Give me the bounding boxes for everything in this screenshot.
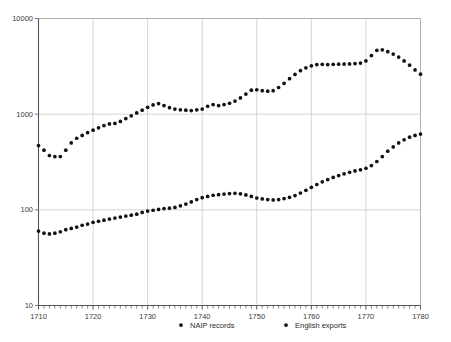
- legend-label: English exports: [295, 321, 347, 330]
- data-point: [108, 217, 112, 221]
- data-point: [413, 68, 417, 72]
- data-point: [282, 81, 286, 85]
- data-point: [337, 174, 341, 178]
- data-point: [162, 104, 166, 108]
- x-axis-tick-label: 1720: [85, 312, 102, 321]
- data-point: [53, 155, 57, 159]
- data-point: [195, 108, 199, 112]
- data-point: [342, 62, 346, 66]
- data-point: [391, 52, 395, 56]
- data-point: [206, 195, 210, 199]
- data-point: [184, 202, 188, 206]
- data-point: [315, 183, 319, 187]
- data-point: [200, 196, 204, 200]
- data-point: [364, 166, 368, 170]
- data-point: [320, 62, 324, 66]
- legend-marker-icon: [179, 323, 183, 327]
- data-point: [233, 191, 237, 195]
- data-point: [211, 193, 215, 197]
- data-point: [299, 69, 303, 73]
- data-point: [293, 73, 297, 77]
- chart-container: 1000010001001017101720173017401750176017…: [0, 0, 451, 342]
- data-point: [189, 200, 193, 204]
- data-point: [173, 206, 177, 210]
- legend-marker-icon: [284, 323, 288, 327]
- data-point: [75, 225, 79, 229]
- data-point: [162, 207, 166, 211]
- data-point: [391, 145, 395, 149]
- data-point: [119, 215, 123, 219]
- data-point: [151, 208, 155, 212]
- data-point: [217, 104, 221, 108]
- data-point: [277, 198, 281, 202]
- data-point: [129, 114, 133, 118]
- legend-label: NAIP records: [190, 321, 235, 330]
- data-point: [408, 135, 412, 139]
- x-axis-tick-label: 1770: [358, 312, 375, 321]
- data-point: [244, 92, 248, 96]
- data-point: [189, 109, 193, 113]
- data-point: [282, 197, 286, 201]
- data-point: [266, 89, 270, 93]
- data-point: [288, 196, 292, 200]
- series-english-exports: [37, 132, 423, 236]
- data-point: [331, 62, 335, 66]
- data-point: [342, 172, 346, 176]
- data-point: [271, 198, 275, 202]
- data-point: [184, 108, 188, 112]
- data-point: [179, 108, 183, 112]
- data-point: [397, 55, 401, 59]
- data-point: [375, 160, 379, 164]
- data-point: [331, 176, 335, 180]
- data-point: [146, 209, 150, 213]
- data-point: [326, 178, 330, 182]
- data-point: [255, 88, 259, 92]
- y-axis-tick-label: 100: [20, 205, 33, 214]
- data-point: [211, 103, 215, 107]
- data-point: [260, 89, 264, 93]
- data-point: [69, 227, 73, 231]
- data-point: [173, 107, 177, 111]
- data-point: [200, 107, 204, 111]
- data-point: [86, 131, 90, 135]
- data-point: [228, 192, 232, 196]
- data-point: [233, 99, 237, 103]
- data-point: [86, 222, 90, 226]
- data-point: [408, 63, 412, 67]
- data-point: [195, 198, 199, 202]
- data-point: [239, 192, 243, 196]
- x-axis-tick-label: 1710: [30, 312, 47, 321]
- data-point: [380, 48, 384, 52]
- data-point: [124, 214, 128, 218]
- data-point: [364, 59, 368, 63]
- data-point: [353, 169, 357, 173]
- data-point: [315, 63, 319, 67]
- data-point: [48, 232, 52, 236]
- data-point: [37, 229, 41, 233]
- data-point: [222, 103, 226, 107]
- data-point: [168, 106, 172, 110]
- data-point: [140, 108, 144, 112]
- log-scatter-chart: 1000010001001017101720173017401750176017…: [0, 0, 451, 342]
- data-point: [97, 219, 101, 223]
- data-point: [277, 86, 281, 90]
- data-point: [53, 231, 57, 235]
- data-point: [102, 218, 106, 222]
- data-point: [102, 124, 106, 128]
- y-axis-tick-label: 1000: [16, 110, 33, 119]
- data-point: [42, 231, 46, 235]
- data-point: [353, 62, 357, 66]
- data-point: [386, 149, 390, 153]
- x-axis-tick-label: 1730: [139, 312, 156, 321]
- data-point: [402, 138, 406, 142]
- data-point: [293, 194, 297, 198]
- data-point: [419, 72, 423, 76]
- data-point: [380, 155, 384, 159]
- data-point: [413, 134, 417, 138]
- data-point: [91, 128, 95, 132]
- data-point: [397, 141, 401, 145]
- data-point: [266, 198, 270, 202]
- data-point: [151, 103, 155, 107]
- data-point: [64, 148, 68, 152]
- data-point: [217, 193, 221, 197]
